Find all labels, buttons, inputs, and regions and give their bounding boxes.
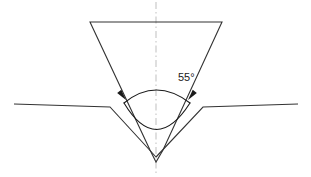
v-bend-angle-diagram: 55° (0, 0, 311, 177)
angle-dimension-label: 55° (178, 71, 195, 83)
diagram-canvas: 55° (0, 0, 311, 177)
